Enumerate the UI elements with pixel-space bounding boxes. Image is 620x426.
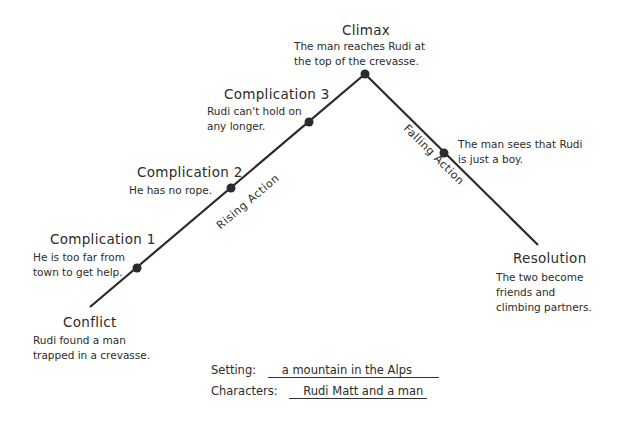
falling-action-line-2: is just a boy.: [458, 152, 582, 167]
characters-field: Characters: Rudi Matt and a man: [211, 384, 427, 399]
complication-1-line-1: He is too far from: [33, 250, 125, 265]
complication-1-line-2: town to get help.: [33, 265, 125, 280]
complication-2-title: Complication 2: [137, 164, 243, 180]
dot-complication-1: [133, 264, 142, 273]
conflict-line-1: Rudi found a man: [33, 333, 150, 348]
complication-3-line-2: any longer.: [207, 119, 302, 134]
resolution-description: The two become friends and climbing part…: [496, 270, 592, 315]
resolution-line-1: The two become: [496, 270, 592, 285]
falling-action-description: The man sees that Rudi is just a boy.: [458, 137, 582, 167]
climax-description: The man reaches Rudi at the top of the c…: [294, 39, 425, 69]
climax-line-2: the top of the crevasse.: [294, 54, 425, 69]
plot-diagram: Climax The man reaches Rudi at the top o…: [0, 0, 620, 426]
falling-action-line-1: The man sees that Rudi: [458, 137, 582, 152]
resolution-line-2: friends and: [496, 285, 592, 300]
complication-1-title: Complication 1: [50, 231, 156, 247]
conflict-title: Conflict: [63, 314, 117, 330]
characters-value: Rudi Matt and a man: [289, 384, 427, 399]
setting-field: Setting: a mountain in the Alps: [211, 363, 439, 378]
resolution-title: Resolution: [513, 250, 587, 266]
complication-1-description: He is too far from town to get help.: [33, 250, 125, 280]
resolution-line-3: climbing partners.: [496, 300, 592, 315]
complication-3-description: Rudi can't hold on any longer.: [207, 104, 302, 134]
setting-value: a mountain in the Alps: [268, 363, 439, 378]
complication-3-line-1: Rudi can't hold on: [207, 104, 302, 119]
conflict-description: Rudi found a man trapped in a crevasse.: [33, 333, 150, 363]
complication-2-line-1: He has no rope.: [129, 183, 212, 198]
dot-climax: [361, 70, 370, 79]
climax-line-1: The man reaches Rudi at: [294, 39, 425, 54]
conflict-line-2: trapped in a crevasse.: [33, 348, 150, 363]
setting-label: Setting:: [211, 363, 256, 377]
complication-3-title: Complication 3: [224, 86, 330, 102]
complication-2-description: He has no rope.: [129, 183, 212, 198]
climax-title: Climax: [342, 22, 390, 38]
characters-label: Characters:: [211, 384, 278, 398]
dot-complication-2: [227, 184, 236, 193]
dot-complication-3: [305, 118, 314, 127]
